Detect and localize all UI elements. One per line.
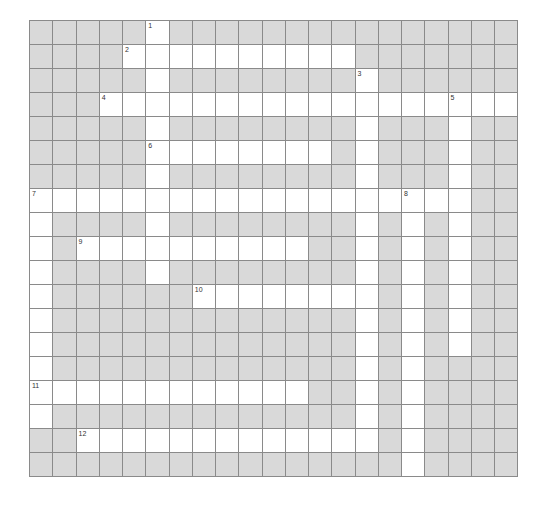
crossword-cell[interactable] — [356, 237, 379, 261]
crossword-cell[interactable] — [286, 381, 309, 405]
crossword-cell[interactable] — [263, 45, 286, 69]
crossword-cell[interactable] — [100, 429, 123, 453]
crossword-cell[interactable] — [449, 141, 472, 165]
crossword-cell[interactable] — [402, 453, 425, 477]
crossword-cell[interactable] — [379, 93, 402, 117]
crossword-cell[interactable] — [263, 237, 286, 261]
crossword-cell[interactable] — [286, 93, 309, 117]
crossword-cell[interactable]: 4 — [100, 93, 123, 117]
crossword-cell[interactable] — [332, 285, 355, 309]
crossword-cell[interactable] — [356, 189, 379, 213]
crossword-cell[interactable] — [77, 189, 100, 213]
crossword-cell[interactable] — [449, 309, 472, 333]
crossword-cell[interactable] — [123, 93, 146, 117]
crossword-cell[interactable] — [449, 165, 472, 189]
crossword-cell[interactable] — [356, 93, 379, 117]
crossword-cell[interactable] — [309, 141, 332, 165]
crossword-cell[interactable] — [170, 381, 193, 405]
crossword-cell[interactable] — [356, 357, 379, 381]
crossword-cell[interactable] — [170, 141, 193, 165]
crossword-cell[interactable] — [30, 309, 53, 333]
crossword-cell[interactable] — [30, 213, 53, 237]
crossword-cell[interactable]: 12 — [77, 429, 100, 453]
crossword-cell[interactable] — [146, 189, 169, 213]
crossword-cell[interactable] — [356, 309, 379, 333]
crossword-cell[interactable] — [356, 261, 379, 285]
crossword-cell[interactable] — [100, 381, 123, 405]
crossword-cell[interactable] — [402, 93, 425, 117]
crossword-cell[interactable] — [239, 45, 262, 69]
crossword-cell[interactable] — [216, 93, 239, 117]
crossword-cell[interactable] — [356, 333, 379, 357]
crossword-cell[interactable] — [356, 381, 379, 405]
crossword-cell[interactable] — [356, 141, 379, 165]
crossword-cell[interactable] — [449, 237, 472, 261]
crossword-cell[interactable] — [146, 117, 169, 141]
crossword-cell[interactable] — [356, 213, 379, 237]
crossword-cell[interactable] — [332, 429, 355, 453]
crossword-cell[interactable] — [100, 189, 123, 213]
crossword-cell[interactable] — [286, 285, 309, 309]
crossword-cell[interactable] — [146, 213, 169, 237]
crossword-cell[interactable]: 7 — [30, 189, 53, 213]
crossword-cell[interactable] — [170, 189, 193, 213]
crossword-cell[interactable] — [123, 429, 146, 453]
crossword-cell[interactable] — [146, 261, 169, 285]
crossword-cell[interactable] — [239, 285, 262, 309]
crossword-cell[interactable] — [356, 429, 379, 453]
crossword-cell[interactable] — [356, 285, 379, 309]
crossword-cell[interactable] — [193, 93, 216, 117]
crossword-cell[interactable] — [216, 285, 239, 309]
crossword-cell[interactable] — [449, 117, 472, 141]
crossword-cell[interactable] — [263, 381, 286, 405]
crossword-cell[interactable] — [309, 189, 332, 213]
crossword-cell[interactable]: 8 — [402, 189, 425, 213]
crossword-cell[interactable] — [402, 285, 425, 309]
crossword-cell[interactable] — [100, 237, 123, 261]
crossword-cell[interactable] — [170, 45, 193, 69]
crossword-cell[interactable]: 3 — [356, 69, 379, 93]
crossword-cell[interactable] — [216, 141, 239, 165]
crossword-cell[interactable] — [309, 45, 332, 69]
crossword-cell[interactable] — [263, 93, 286, 117]
crossword-cell[interactable] — [146, 93, 169, 117]
crossword-cell[interactable] — [170, 429, 193, 453]
crossword-cell[interactable] — [402, 357, 425, 381]
crossword-cell[interactable] — [146, 381, 169, 405]
crossword-cell[interactable] — [53, 381, 76, 405]
crossword-cell[interactable] — [193, 237, 216, 261]
crossword-cell[interactable] — [146, 45, 169, 69]
crossword-cell[interactable] — [402, 381, 425, 405]
crossword-cell[interactable] — [146, 429, 169, 453]
crossword-cell[interactable] — [239, 429, 262, 453]
crossword-cell[interactable] — [449, 189, 472, 213]
crossword-cell[interactable] — [193, 45, 216, 69]
crossword-cell[interactable] — [216, 45, 239, 69]
crossword-cell[interactable] — [263, 141, 286, 165]
crossword-cell[interactable] — [286, 429, 309, 453]
crossword-cell[interactable] — [286, 189, 309, 213]
crossword-cell[interactable] — [449, 213, 472, 237]
crossword-cell[interactable]: 1 — [146, 21, 169, 45]
crossword-cell[interactable] — [332, 189, 355, 213]
crossword-cell[interactable] — [239, 93, 262, 117]
crossword-cell[interactable] — [263, 285, 286, 309]
crossword-cell[interactable] — [30, 405, 53, 429]
crossword-cell[interactable] — [123, 381, 146, 405]
crossword-cell[interactable] — [449, 285, 472, 309]
crossword-cell[interactable] — [239, 381, 262, 405]
crossword-cell[interactable] — [402, 213, 425, 237]
crossword-cell[interactable] — [402, 429, 425, 453]
crossword-cell[interactable] — [356, 117, 379, 141]
crossword-cell[interactable] — [239, 189, 262, 213]
crossword-cell[interactable] — [495, 93, 518, 117]
crossword-cell[interactable] — [449, 333, 472, 357]
crossword-cell[interactable] — [286, 237, 309, 261]
crossword-cell[interactable] — [309, 93, 332, 117]
crossword-cell[interactable] — [123, 237, 146, 261]
crossword-cell[interactable]: 5 — [449, 93, 472, 117]
crossword-cell[interactable] — [239, 141, 262, 165]
crossword-cell[interactable]: 6 — [146, 141, 169, 165]
crossword-cell[interactable] — [425, 189, 448, 213]
crossword-cell[interactable] — [286, 141, 309, 165]
